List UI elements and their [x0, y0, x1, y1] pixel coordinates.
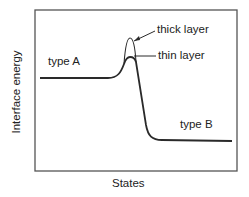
type-b-label: type B — [180, 119, 213, 131]
x-axis-label: States — [112, 178, 145, 190]
y-axis-label: Interface energy — [10, 50, 22, 133]
energy-diagram — [0, 0, 249, 197]
thick-layer-label: thick layer — [157, 24, 209, 36]
thin-layer-label: thin layer — [158, 50, 205, 62]
type-a-label: type A — [48, 56, 80, 68]
thick-layer-arrowhead — [134, 36, 140, 41]
